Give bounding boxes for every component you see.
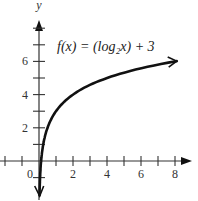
- x-tick-label: 0: [27, 167, 33, 181]
- x-axis-arrow-icon: [181, 157, 192, 165]
- x-tick-label: 6: [138, 167, 144, 181]
- function-label: f(x) = (log₂x) + 3: [57, 39, 155, 55]
- y-tick-label: 4: [22, 88, 28, 102]
- y-axis-arrow-icon: [35, 20, 43, 31]
- x-tick-label: 2: [70, 167, 76, 181]
- function-graph: 02468246yf(x) = (log₂x) + 3: [0, 0, 198, 201]
- x-tick-label: 4: [104, 167, 110, 181]
- y-axis-label: y: [35, 0, 42, 12]
- labels: 02468246yf(x) = (log₂x) + 3: [22, 0, 178, 181]
- y-tick-label: 2: [22, 121, 28, 135]
- y-tick-label: 6: [22, 54, 28, 68]
- x-tick-label: 8: [172, 167, 178, 181]
